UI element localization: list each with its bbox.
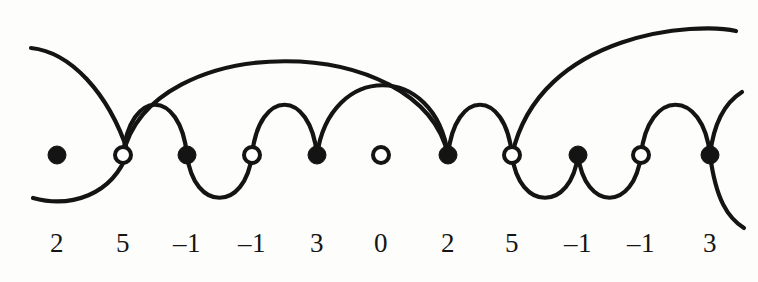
- arc-layer: [31, 28, 744, 228]
- arc-3-to-4: [187, 155, 252, 198]
- node-layer: [48, 146, 719, 164]
- arc-8-to-9: [512, 155, 578, 198]
- node-11-filled: [701, 146, 719, 164]
- arc-2-to-7: [123, 61, 448, 155]
- arc-5-to-7: [317, 85, 448, 155]
- arc-9-to-10: [578, 155, 641, 198]
- arc-diagram-canvas: [0, 0, 758, 282]
- arc-tail-left: [33, 152, 128, 201]
- node-4-hollow: [244, 147, 260, 163]
- node-7-filled: [439, 146, 457, 164]
- node-9-filled: [569, 146, 587, 164]
- arc-10-to-11: [641, 105, 710, 155]
- arc-4-to-5: [252, 105, 317, 155]
- node-2-hollow: [115, 147, 131, 163]
- arc-diagram-figure: 25–1–13025–1–13: [0, 0, 758, 282]
- node-6-hollow: [373, 147, 389, 163]
- arc-open-right-up: [710, 92, 742, 155]
- arc-open-left: [31, 48, 128, 152]
- arc-open-right: [710, 155, 744, 228]
- arc-8-to-right-edge: [512, 28, 736, 155]
- arc-7-to-8: [448, 105, 512, 155]
- node-8-hollow: [504, 147, 520, 163]
- node-3-filled: [178, 146, 196, 164]
- node-10-hollow: [633, 147, 649, 163]
- node-5-filled: [308, 146, 326, 164]
- node-1-filled: [48, 146, 66, 164]
